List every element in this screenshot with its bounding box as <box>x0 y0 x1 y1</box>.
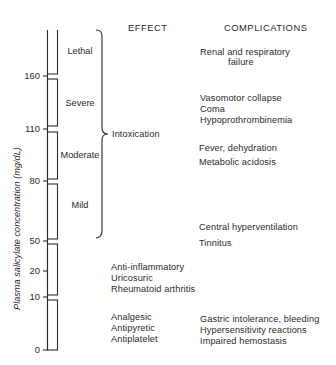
complication-fever: Fever, dehydration <box>199 143 277 154</box>
effect-intoxication: Intoxication <box>112 129 160 140</box>
effect-antiplatelet: Antiplatelet <box>111 334 158 345</box>
complication-vasomotor-collapse: Vasomotor collapse <box>200 93 282 104</box>
tick-label-160: 160 <box>18 70 40 81</box>
bar-mild <box>48 184 58 239</box>
complication-coma: Coma <box>200 104 225 115</box>
tick-label-50: 50 <box>18 235 40 246</box>
level-moderate: Moderate <box>55 150 105 160</box>
complication-central-hyperventilation: Central hyperventilation <box>199 222 298 233</box>
effect-uricosuric: Uricosuric <box>111 273 153 284</box>
complication-hypoprothrombinemia: Hypoprothrombinemia <box>200 115 292 126</box>
tick-label-10: 10 <box>18 291 40 302</box>
effect-anti-inflammatory: Anti-inflammatory <box>111 262 184 273</box>
bar-therapeutic-high <box>48 244 58 295</box>
tick-label-20: 20 <box>18 265 40 276</box>
complication-failure: failure <box>228 57 254 68</box>
complication-hypersensitivity: Hypersensitivity reactions <box>200 325 307 336</box>
header-complications: COMPLICATIONS <box>224 22 307 33</box>
complication-tinnitus: Tinnitus <box>199 238 232 249</box>
level-severe: Severe <box>55 98 105 108</box>
effect-analgesic: Analgesic <box>111 312 152 323</box>
level-mild: Mild <box>55 200 105 210</box>
tick-label-0: 0 <box>18 344 40 355</box>
tick-label-80: 80 <box>18 175 40 186</box>
y-axis-label: Plasma salicylate concentration (mg/dL) <box>12 147 22 310</box>
effect-antipyretic: Antipyretic <box>111 323 155 334</box>
bar-therapeutic-low <box>48 300 58 350</box>
level-lethal: Lethal <box>55 46 105 56</box>
effect-rheumatoid-arthritis: Rheumatoid arthritis <box>111 284 195 295</box>
complication-impaired-hemostasis: Impaired hemostasis <box>200 336 287 347</box>
complication-gastric-intolerance: Gastric intolerance, bleeding <box>200 314 319 325</box>
complication-metabolic-acidosis: Metabolic acidosis <box>199 157 276 168</box>
header-effect: EFFECT <box>128 22 167 33</box>
tick-label-110: 110 <box>18 123 40 134</box>
